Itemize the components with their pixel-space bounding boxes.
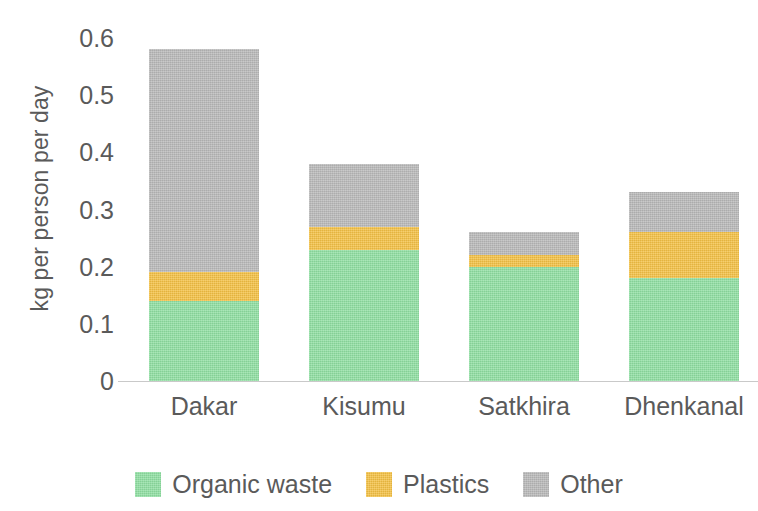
legend-label-plastics: Plastics <box>403 470 489 499</box>
legend-item-other[interactable]: Other <box>523 470 623 499</box>
bar-kisumu[interactable] <box>309 164 419 381</box>
bar-satkhira[interactable] <box>469 232 579 381</box>
legend-item-organic-waste[interactable]: Organic waste <box>135 470 332 499</box>
bar-segment-dhenkanal-organic[interactable] <box>629 278 739 381</box>
legend-item-plastics[interactable]: Plastics <box>366 470 489 499</box>
bar-segment-satkhira-other[interactable] <box>469 232 579 255</box>
x-axis-tick-labels: DakarKisumuSatkhiraDhenkanal <box>118 392 758 434</box>
legend-label-organic-waste: Organic waste <box>172 470 332 499</box>
bar-segment-satkhira-organic[interactable] <box>469 267 579 381</box>
bar-segment-satkhira-plastics[interactable] <box>469 255 579 266</box>
bar-segment-dakar-organic[interactable] <box>149 301 259 381</box>
bar-dakar[interactable] <box>149 49 259 381</box>
bar-segment-dakar-other[interactable] <box>149 49 259 272</box>
chart-legend: Organic wastePlasticsOther <box>0 470 758 499</box>
y-axis-tick-0-3: 0.3 <box>52 197 114 222</box>
y-axis-tick-0-2: 0.2 <box>52 254 114 279</box>
y-axis-title: kg per person per day <box>27 39 54 359</box>
bar-dhenkanal[interactable] <box>629 192 739 381</box>
x-axis-label-satkhira: Satkhira <box>478 392 570 421</box>
plot-area <box>118 0 758 382</box>
bar-segment-dhenkanal-plastics[interactable] <box>629 232 739 278</box>
y-axis-tick-0-4: 0.4 <box>52 140 114 165</box>
y-axis-tick-0-1: 0.1 <box>52 311 114 336</box>
y-axis-tick-labels: 00.10.20.30.40.50.6 <box>52 0 114 420</box>
y-axis-tick-0: 0 <box>52 369 114 394</box>
bar-segment-dakar-plastics[interactable] <box>149 272 259 301</box>
bar-segment-kisumu-organic[interactable] <box>309 250 419 381</box>
x-axis-label-dakar: Dakar <box>171 392 238 421</box>
x-axis-line <box>118 381 758 382</box>
y-axis-tick-0-6: 0.6 <box>52 26 114 51</box>
legend-label-other: Other <box>560 470 623 499</box>
bar-segment-kisumu-plastics[interactable] <box>309 227 419 250</box>
x-axis-label-dhenkanal: Dhenkanal <box>624 392 744 421</box>
bar-segment-dhenkanal-other[interactable] <box>629 192 739 232</box>
y-axis-tick-0-5: 0.5 <box>52 83 114 108</box>
other-swatch <box>523 472 549 497</box>
organic-waste-swatch <box>135 472 161 497</box>
plastics-swatch <box>366 472 392 497</box>
bar-segment-kisumu-other[interactable] <box>309 164 419 227</box>
stacked-bar-chart: kg per person per day 00.10.20.30.40.50.… <box>0 0 758 511</box>
x-axis-label-kisumu: Kisumu <box>322 392 405 421</box>
